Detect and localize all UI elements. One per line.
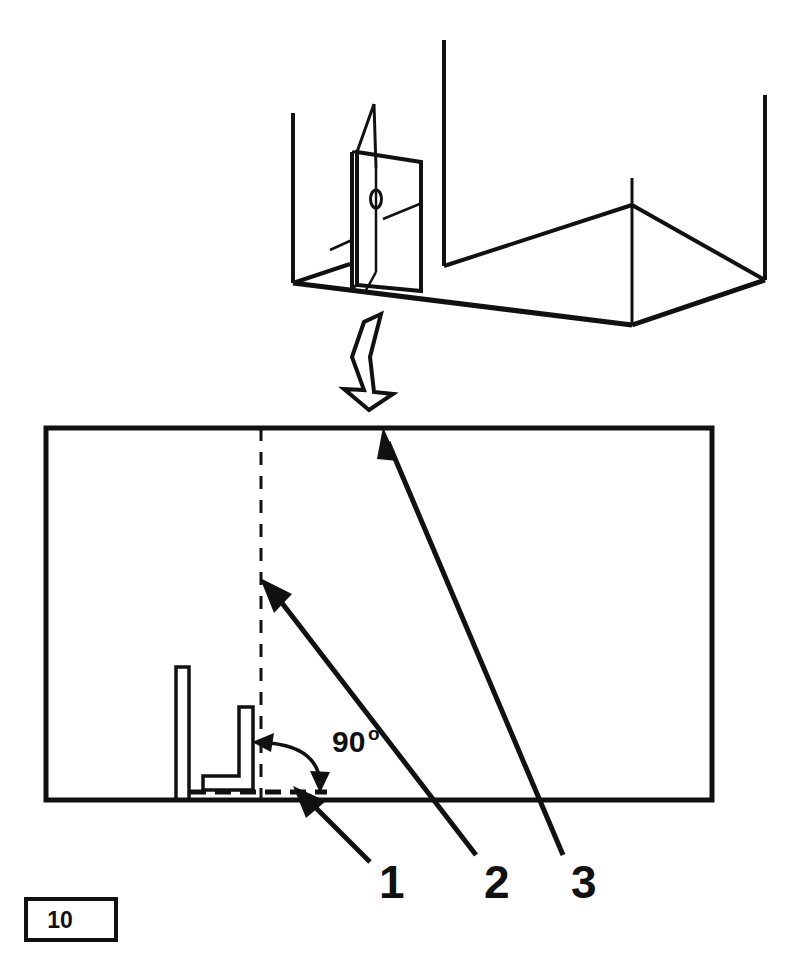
page-number-label: 10 — [47, 907, 73, 933]
callout-3-line — [388, 442, 563, 855]
partition-panel-face — [357, 152, 421, 291]
box-floor-edge-front-right — [632, 280, 765, 325]
box-floor-edge-back-left — [293, 264, 350, 283]
pointer-spike-right-edge — [374, 104, 376, 168]
box-floor-edge-front — [293, 283, 632, 325]
panel-diagonal-guide — [383, 203, 422, 219]
callout-label-3: 3 — [571, 856, 597, 908]
angle-arc — [270, 743, 320, 783]
transfer-arrow-outline — [344, 314, 393, 410]
angle-label-value: 90 — [332, 725, 365, 758]
isometric-assembly-view — [293, 40, 765, 410]
panel-fold-line — [365, 272, 376, 292]
angle-arc-arrowhead-left — [252, 733, 274, 752]
callout-label-2: 2 — [484, 856, 510, 908]
vertical-post — [176, 667, 189, 800]
pointer-spike-left-edge — [357, 104, 374, 152]
callout-label-1: 1 — [379, 856, 405, 908]
page-number-box: 10 — [26, 899, 116, 940]
box-floor-edge-back-right — [444, 205, 632, 266]
technical-figure: 90 o 1 2 3 10 — [0, 0, 801, 957]
callout-3-arrowhead — [377, 427, 398, 461]
callout-2-line — [272, 590, 476, 855]
callout-leader-2 — [260, 578, 476, 855]
callout-leader-3 — [377, 427, 563, 855]
box-floor-edge-right-corner — [632, 205, 765, 280]
floor-guide-left — [330, 240, 352, 250]
elevation-frame-rect — [46, 428, 712, 800]
figure-canvas: 90 o 1 2 3 10 — [0, 0, 801, 957]
elevation-detail-view: 90 o 1 2 3 — [46, 427, 712, 908]
callout-leader-1 — [293, 786, 370, 862]
right-angle-bracket — [203, 707, 253, 790]
